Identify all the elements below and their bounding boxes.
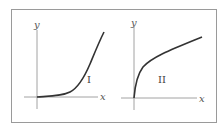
panel-ii-curve <box>134 37 202 98</box>
panel-ii: y x II <box>121 17 205 110</box>
panel-ii-y-label: y <box>130 17 137 28</box>
graphs-figure: y x I y x II <box>0 0 224 129</box>
panel-i-y-label: y <box>33 19 40 30</box>
panel-ii-label: II <box>158 74 166 85</box>
panel-i: y x I <box>24 19 106 109</box>
panel-i-label: I <box>87 74 91 85</box>
panel-i-x-label: x <box>100 91 106 102</box>
panel-i-curve <box>37 32 104 97</box>
panel-ii-x-label: x <box>199 93 205 104</box>
